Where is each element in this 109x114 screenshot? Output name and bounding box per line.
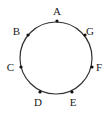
circle-diagram-canvas: ABCDEFG: [0, 0, 109, 114]
point-label-d: D: [34, 96, 42, 108]
circle: [20, 22, 92, 94]
point-label-c: C: [7, 61, 14, 73]
points-group: ABCDEFG: [7, 5, 102, 108]
point-f: [90, 65, 93, 68]
point-b: [26, 33, 29, 36]
point-c: [19, 65, 22, 68]
circle-diagram: ABCDEFG: [0, 0, 109, 114]
point-d: [38, 90, 41, 93]
point-e: [70, 90, 73, 93]
point-label-a: A: [53, 5, 61, 17]
point-label-g: G: [86, 25, 94, 37]
point-label-e: E: [70, 96, 77, 108]
point-label-f: F: [96, 61, 102, 73]
point-label-b: B: [13, 25, 20, 37]
point-a: [55, 19, 58, 22]
